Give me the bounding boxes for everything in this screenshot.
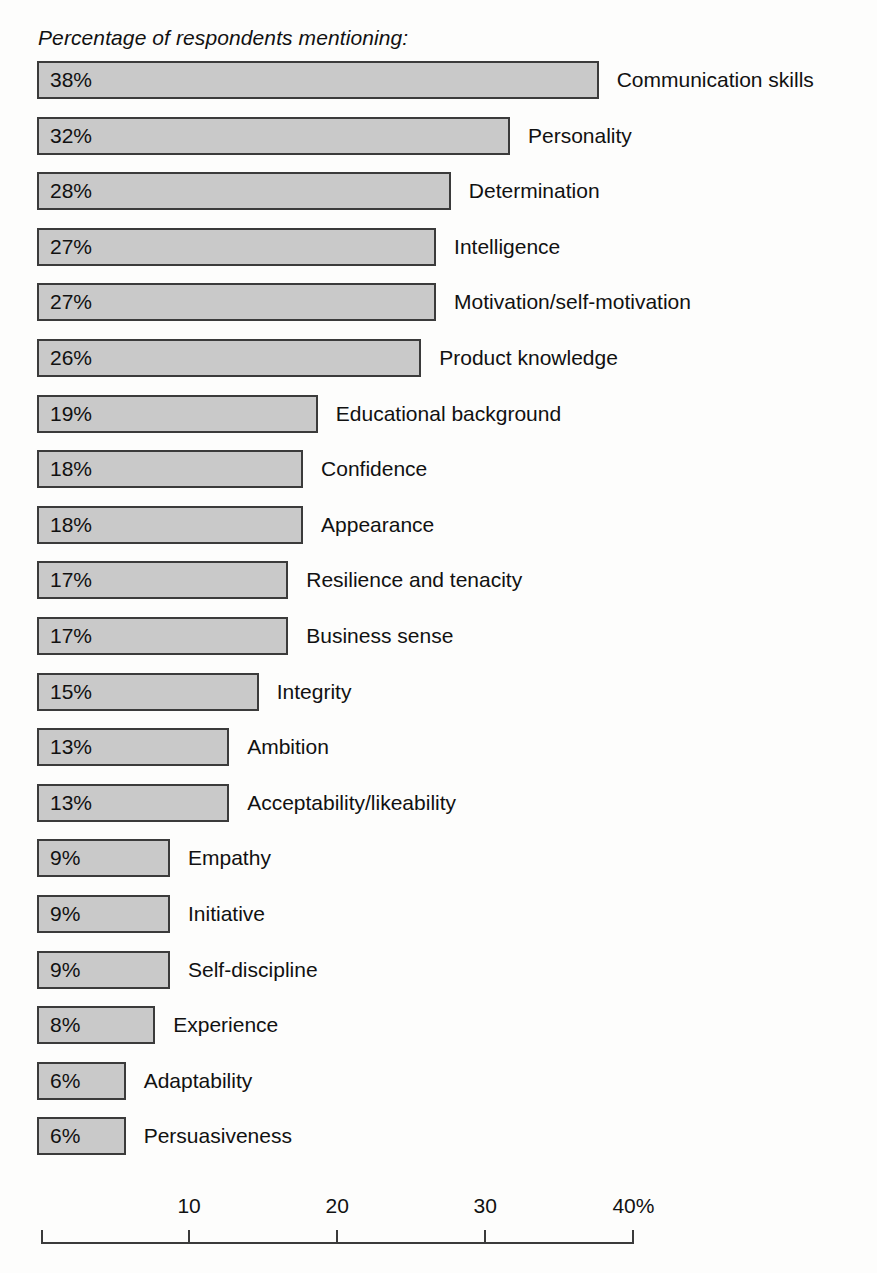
bar[interactable] xyxy=(37,617,288,655)
x-axis: 10203040% xyxy=(0,1186,877,1266)
bar-category-label: Adaptability xyxy=(144,1062,253,1100)
bar-row[interactable]: 17%Business sense xyxy=(0,617,877,673)
chart-title: Percentage of respondents mentioning: xyxy=(38,26,408,50)
bar-row[interactable]: 17%Resilience and tenacity xyxy=(0,561,877,617)
axis-start-cap xyxy=(41,1230,43,1244)
bar[interactable] xyxy=(37,561,288,599)
bar[interactable] xyxy=(37,895,170,933)
bar-category-label: Initiative xyxy=(188,895,265,933)
axis-tick-label: 10 xyxy=(177,1194,200,1218)
bar[interactable] xyxy=(37,728,229,766)
bar[interactable] xyxy=(37,172,451,210)
bar-category-label: Personality xyxy=(528,117,632,155)
bar-series: 38%Communication skills32%Personality28%… xyxy=(0,61,877,1173)
bar-category-label: Experience xyxy=(173,1006,278,1044)
bar-row[interactable]: 19%Educational background xyxy=(0,395,877,451)
bar-category-label: Integrity xyxy=(277,673,352,711)
bar-category-label: Persuasiveness xyxy=(144,1117,292,1155)
bar-row[interactable]: 38%Communication skills xyxy=(0,61,877,117)
bar[interactable] xyxy=(37,839,170,877)
chart-page: Percentage of respondents mentioning: 38… xyxy=(0,0,877,1273)
bar-row[interactable]: 26%Product knowledge xyxy=(0,339,877,395)
bar-row[interactable]: 6%Persuasiveness xyxy=(0,1117,877,1173)
bar-category-label: Acceptability/likeability xyxy=(247,784,456,822)
bar-category-label: Communication skills xyxy=(617,61,814,99)
axis-tick xyxy=(632,1230,634,1244)
bar-category-label: Educational background xyxy=(336,395,561,433)
bar[interactable] xyxy=(37,283,436,321)
bar-category-label: Appearance xyxy=(321,506,434,544)
axis-tick-label: 30 xyxy=(474,1194,497,1218)
bar[interactable] xyxy=(37,951,170,989)
bar-category-label: Confidence xyxy=(321,450,427,488)
axis-tick-label: 40% xyxy=(612,1194,654,1218)
bar-row[interactable]: 15%Integrity xyxy=(0,673,877,729)
bar-row[interactable]: 6%Adaptability xyxy=(0,1062,877,1118)
bar-category-label: Motivation/self-motivation xyxy=(454,283,691,321)
bar[interactable] xyxy=(37,450,303,488)
bar-row[interactable]: 18%Appearance xyxy=(0,506,877,562)
bar[interactable] xyxy=(37,1062,126,1100)
bar[interactable] xyxy=(37,228,436,266)
bar-category-label: Business sense xyxy=(306,617,453,655)
bar-row[interactable]: 9%Initiative xyxy=(0,895,877,951)
bar-category-label: Determination xyxy=(469,172,600,210)
bar-row[interactable]: 32%Personality xyxy=(0,117,877,173)
bar-category-label: Self-discipline xyxy=(188,951,318,989)
bar[interactable] xyxy=(37,395,318,433)
bar[interactable] xyxy=(37,1117,126,1155)
bar[interactable] xyxy=(37,1006,155,1044)
bar-row[interactable]: 9%Self-discipline xyxy=(0,951,877,1007)
bar-row[interactable]: 13%Ambition xyxy=(0,728,877,784)
axis-tick xyxy=(336,1230,338,1244)
bar[interactable] xyxy=(37,61,599,99)
bar[interactable] xyxy=(37,673,259,711)
bar-row[interactable]: 18%Confidence xyxy=(0,450,877,506)
bar-category-label: Product knowledge xyxy=(439,339,618,377)
bar-category-label: Ambition xyxy=(247,728,329,766)
bar-row[interactable]: 27%Motivation/self-motivation xyxy=(0,283,877,339)
bar-category-label: Resilience and tenacity xyxy=(306,561,522,599)
bar-row[interactable]: 9%Empathy xyxy=(0,839,877,895)
axis-tick xyxy=(188,1230,190,1244)
bar-category-label: Empathy xyxy=(188,839,271,877)
axis-tick xyxy=(484,1230,486,1244)
bar-row[interactable]: 8%Experience xyxy=(0,1006,877,1062)
bar-row[interactable]: 28%Determination xyxy=(0,172,877,228)
bar-row[interactable]: 13%Acceptability/likeability xyxy=(0,784,877,840)
bar-category-label: Intelligence xyxy=(454,228,560,266)
bar[interactable] xyxy=(37,339,421,377)
bar-row[interactable]: 27%Intelligence xyxy=(0,228,877,284)
axis-tick-label: 20 xyxy=(326,1194,349,1218)
bar[interactable] xyxy=(37,117,510,155)
bar[interactable] xyxy=(37,506,303,544)
bar[interactable] xyxy=(37,784,229,822)
